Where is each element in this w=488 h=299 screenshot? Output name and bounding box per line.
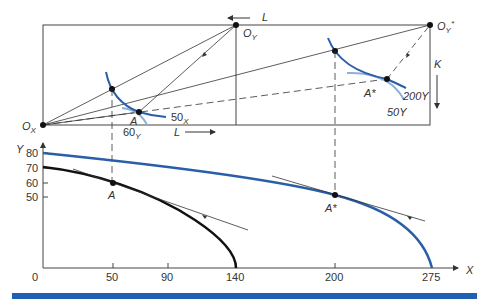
origin-ox-label: OX	[22, 120, 37, 135]
edgeworth-ppf-diagram: OX OY OY* L L K A A* 50X 60Y 200Y 50Y	[0, 0, 488, 299]
isoquant-200y-label: 200Y	[402, 90, 429, 102]
ppf-point-a	[110, 180, 116, 186]
y-tick-60: 60	[26, 177, 38, 189]
isoquant-50x	[106, 72, 166, 117]
origin-oy-star-label: OY*	[437, 19, 455, 35]
point-a-star-label: A*	[363, 87, 376, 99]
ppf-chart	[43, 143, 458, 268]
ray-astar-oystar-dashed	[387, 25, 430, 79]
ppf-point-a-star-label: A*	[324, 202, 337, 214]
tangent-a	[73, 169, 248, 230]
y-axis-label: Y	[16, 143, 24, 155]
x-tick-140: 140	[226, 271, 244, 283]
isoquant-50y-label: 50Y	[387, 106, 407, 118]
k-right-label: K	[434, 58, 442, 70]
y-tick-50: 50	[26, 191, 38, 203]
l-bottom-label: L	[174, 126, 180, 138]
footer-bar	[12, 293, 477, 299]
y-tick-70: 70	[26, 162, 38, 174]
y-tick-80: 80	[26, 147, 38, 159]
x-tick-0: 0	[32, 271, 38, 283]
ray-a-oy	[139, 25, 236, 112]
ppf-point-a-label: A	[107, 189, 115, 201]
edgeworth-box	[40, 18, 437, 132]
isoquant-50x-label: 50X	[171, 111, 189, 126]
x-tick-50: 50	[106, 271, 118, 283]
origin-oy-star	[427, 22, 433, 28]
x-tick-275: 275	[422, 271, 440, 283]
point-a-star	[384, 76, 390, 82]
x-tick-90: 90	[161, 271, 173, 283]
isoquant-200y	[328, 38, 406, 88]
origin-oy	[233, 22, 239, 28]
ppf-black-curve	[43, 167, 236, 268]
ppf-point-a-star	[332, 192, 338, 198]
l-top-label: L	[262, 11, 268, 23]
ppf-blue-curve	[43, 153, 432, 268]
tangent-a-star	[272, 176, 425, 221]
isoquant-60y-label: 60Y	[123, 126, 141, 141]
origin-oy-label: OY	[243, 27, 258, 42]
origin-ox	[40, 122, 46, 128]
x-axis-label: X	[465, 264, 474, 276]
x-tick-200: 200	[325, 271, 343, 283]
